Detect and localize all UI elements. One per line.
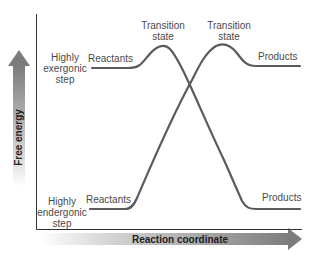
endergonic-ts-line-2: state (204, 31, 254, 42)
exergonic-step-line-1: Highly (40, 52, 90, 63)
endergonic-reactants-label: Reactants (86, 194, 131, 205)
endergonic-step-line-2: endergonic (36, 207, 88, 218)
endergonic-transition-state-label: Transition state (204, 20, 254, 42)
endergonic-step-line-1: Highly (36, 196, 88, 207)
y-axis-label: Free energy (13, 106, 24, 170)
endergonic-step-line-3: step (36, 218, 88, 229)
exergonic-products-label: Products (262, 192, 301, 203)
exergonic-reactants-label: Reactants (88, 53, 133, 64)
exergonic-step-line-3: step (40, 74, 90, 85)
endergonic-step-label: Highly endergonic step (36, 196, 88, 229)
exergonic-ts-line-2: state (138, 31, 188, 42)
exergonic-transition-state-label: Transition state (138, 20, 188, 42)
exergonic-step-line-2: exergonic (40, 63, 90, 74)
exergonic-ts-line-1: Transition (138, 20, 188, 31)
endergonic-ts-line-1: Transition (204, 20, 254, 31)
x-axis-label: Reaction coordinate (120, 234, 240, 245)
exergonic-step-label: Highly exergonic step (40, 52, 90, 85)
endergonic-products-label: Products (258, 51, 297, 62)
